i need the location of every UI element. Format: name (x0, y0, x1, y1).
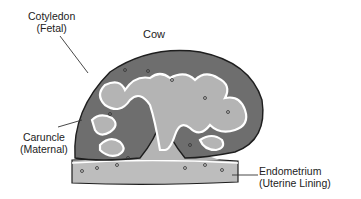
caruncle-label-line2: (Maternal) (20, 143, 68, 155)
caruncle-label-line1: Caruncle (20, 131, 68, 143)
endometrium-label-line1: Endometrium (259, 165, 331, 177)
endometrium-label-line2: (Uterine Lining) (259, 177, 331, 189)
cotyledon-label: Cotyledon (Fetal) (28, 10, 75, 34)
cotyledon-pointer (60, 36, 88, 73)
endometrium-label: Endometrium (Uterine Lining) (259, 165, 331, 189)
cotyledon-label-line1: Cotyledon (28, 10, 75, 22)
caruncle-label: Caruncle (Maternal) (20, 131, 68, 155)
cotyledon-label-line2: (Fetal) (28, 22, 75, 34)
title-label: Cow (143, 28, 165, 40)
